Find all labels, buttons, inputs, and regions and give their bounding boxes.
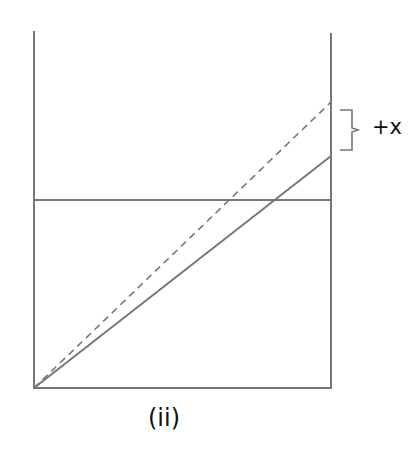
- brace-label: +x: [372, 115, 402, 139]
- figure-caption: (ii): [148, 404, 180, 432]
- dashed-diagonal: [34, 102, 331, 388]
- diagram-figure: [0, 0, 420, 457]
- solid-diagonal: [34, 156, 331, 388]
- curly-brace-icon: [340, 110, 358, 150]
